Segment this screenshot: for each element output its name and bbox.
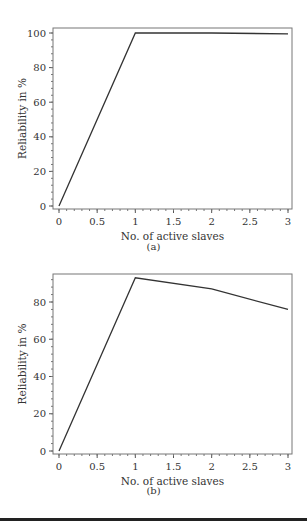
- y-axis-label: Reliability in %: [16, 78, 28, 159]
- x-tick-label: 3: [285, 461, 291, 472]
- reliability-line: [59, 33, 288, 206]
- chart-a: 02040608010000.511.522.53No. of active s…: [0, 0, 307, 260]
- x-tick-label: 2.5: [242, 216, 258, 227]
- y-tick-label: 80: [33, 297, 46, 308]
- x-tick-label: 0.5: [89, 216, 105, 227]
- y-tick-label: 20: [33, 166, 46, 177]
- y-tick-label: 80: [33, 62, 46, 73]
- y-tick-label: 40: [33, 371, 46, 382]
- reliability-line: [59, 278, 288, 451]
- bottom-rule: [0, 518, 307, 521]
- x-tick-label: 1.5: [166, 461, 182, 472]
- x-tick-label: 3: [285, 216, 291, 227]
- x-tick-label: 0.5: [89, 461, 105, 472]
- x-tick-label: 0: [56, 216, 62, 227]
- chart-b: 02040608000.511.522.53No. of active slav…: [0, 260, 307, 520]
- y-tick-label: 0: [40, 446, 46, 457]
- y-tick-label: 20: [33, 408, 46, 419]
- chart-a-caption: (a): [0, 241, 307, 252]
- x-tick-label: 1: [132, 216, 138, 227]
- chart-b-plot: 02040608000.511.522.53No. of active slav…: [0, 260, 307, 510]
- plot-frame: [53, 28, 292, 209]
- y-tick-label: 0: [40, 201, 46, 212]
- x-tick-label: 2: [208, 461, 214, 472]
- x-tick-label: 0: [56, 461, 62, 472]
- y-tick-label: 60: [33, 97, 46, 108]
- x-tick-label: 1.5: [166, 216, 182, 227]
- chart-a-plot: 02040608010000.511.522.53No. of active s…: [0, 0, 307, 260]
- y-tick-label: 40: [33, 131, 46, 142]
- x-tick-label: 1: [132, 461, 138, 472]
- x-tick-label: 2.5: [242, 461, 258, 472]
- chart-b-caption: (b): [0, 485, 307, 496]
- y-tick-label: 60: [33, 334, 46, 345]
- y-axis-label: Reliability in %: [16, 324, 28, 405]
- y-tick-label: 100: [27, 28, 46, 39]
- x-tick-label: 2: [208, 216, 214, 227]
